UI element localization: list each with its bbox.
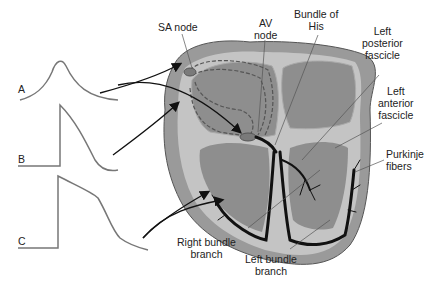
heart	[164, 41, 375, 264]
label-right-bundle-branch: Right bundle branch	[177, 236, 236, 260]
waveform-label-c: C	[18, 235, 26, 247]
waveform-b	[18, 105, 118, 171]
label-av-node: AV node	[254, 17, 277, 41]
waveform-label-a: A	[18, 83, 25, 95]
av-node	[240, 133, 256, 141]
waveforms	[18, 61, 148, 250]
waveform-c	[18, 176, 148, 250]
waveform-a	[20, 61, 118, 100]
label-left-anterior-fascicle: Left anterior fascicle	[378, 85, 414, 121]
label-sa-node: SA node	[158, 21, 198, 33]
left-atrium	[282, 61, 356, 129]
label-left-bundle-branch: Left bundle branch	[245, 253, 297, 277]
waveform-label-b: B	[18, 153, 25, 165]
label-purkinje-fibers: Purkinje fibers	[386, 148, 424, 172]
sa-node	[184, 68, 196, 76]
label-left-posterior-fascicle: Left posterior fascicle	[362, 25, 403, 61]
label-bundle-of-his: Bundle of His	[294, 8, 338, 32]
